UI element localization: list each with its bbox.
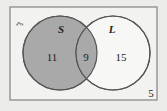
region-outside: 5 [148, 87, 154, 99]
region-intersection: 9 [83, 51, 89, 63]
set-s-label: S [58, 23, 64, 35]
region-only-l: 15 [116, 51, 128, 63]
set-l-label: L [108, 23, 116, 35]
region-only-s: 11 [47, 51, 58, 63]
universal-symbol: ξ [15, 22, 25, 26]
venn-diagram: ξ S L 11 9 15 5 [0, 0, 167, 111]
